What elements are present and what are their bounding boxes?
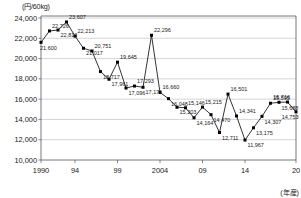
svg-text:15,688: 15,688 [282,105,299,111]
svg-text:14,164: 14,164 [197,120,214,126]
svg-text:21,600: 21,600 [40,45,57,51]
svg-text:16,000: 16,000 [14,95,37,104]
x-axis-unit-label: (年産) [280,187,299,197]
data-series-points [40,20,298,141]
svg-text:20,000: 20,000 [14,54,37,63]
svg-text:18,000: 18,000 [14,74,37,83]
svg-text:18,717: 18,717 [103,74,120,80]
data-series-line [41,22,296,140]
svg-text:22,296: 22,296 [154,27,171,33]
svg-text:09: 09 [198,166,206,175]
svg-text:14,000: 14,000 [14,115,37,124]
svg-text:11,967: 11,967 [248,142,264,148]
svg-text:22,000: 22,000 [14,34,37,43]
y-axis-ticks-group: 10,00012,00014,00016,00018,00020,00022,0… [14,14,41,165]
svg-text:21,017: 21,017 [86,50,103,56]
svg-text:13,175: 13,175 [256,130,273,136]
svg-text:1990: 1990 [33,166,49,175]
chart-plot-area: 10,00012,00014,00016,00018,00020,00022,0… [0,0,301,198]
svg-text:24,000: 24,000 [14,14,37,23]
svg-text:16,501: 16,501 [231,86,248,92]
svg-text:2004: 2004 [152,166,168,175]
svg-text:17,293: 17,293 [137,78,154,84]
svg-text:15,215: 15,215 [205,99,222,105]
svg-text:17,096: 17,096 [129,90,146,96]
svg-text:14,307: 14,307 [265,119,282,125]
svg-text:22,726: 22,726 [52,23,69,29]
svg-text:22,213: 22,213 [78,28,95,34]
svg-text:17,961: 17,961 [112,81,129,87]
rice-price-line-chart: (円/60kg) 10,00012,00014,00016,00018,0002… [0,0,301,198]
svg-text:99: 99 [113,166,121,175]
svg-text:10,000: 10,000 [14,156,37,165]
svg-text:14: 14 [241,166,249,175]
svg-text:94: 94 [71,166,79,175]
svg-text:14,341: 14,341 [239,108,256,114]
svg-text:12,000: 12,000 [14,135,37,144]
svg-text:19,645: 19,645 [120,54,137,60]
svg-text:14,753: 14,753 [282,114,299,120]
svg-text:15,146: 15,146 [188,100,205,106]
svg-text:15,203: 15,203 [180,109,197,115]
svg-text:15,716: 15,716 [273,94,290,100]
svg-text:17,171: 17,171 [146,89,163,95]
svg-text:16,660: 16,660 [163,84,180,90]
svg-text:23,607: 23,607 [69,14,86,20]
svg-text:20,751: 20,751 [95,43,112,49]
svg-text:16,048: 16,048 [171,101,188,107]
svg-text:14,470: 14,470 [214,117,231,123]
svg-text:22,813: 22,813 [61,32,78,38]
svg-text:12,711: 12,711 [222,135,238,141]
svg-text:20: 20 [292,166,300,175]
data-point-labels: 21,60022,72622,81323,60722,21321,01720,7… [40,14,299,148]
x-axis-ticks-group: 199094992004091420 [33,160,300,175]
